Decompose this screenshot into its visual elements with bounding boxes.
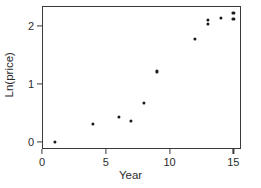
y-axis-tick-label: 1 [18, 79, 34, 90]
x-axis-tick-label: 5 [103, 157, 109, 168]
y-axis-tick-label: 2 [18, 21, 34, 32]
y-axis-tick [37, 84, 42, 85]
plot-area [42, 6, 241, 149]
y-axis-tick [37, 26, 42, 27]
x-axis-tick [41, 149, 42, 154]
x-axis-label: Year [0, 170, 261, 182]
y-axis-label: Ln(price) [4, 52, 16, 97]
x-axis-tick-label: 0 [39, 157, 45, 168]
y-axis-label-wrapper: Ln(price) [2, 0, 18, 149]
x-axis-tick [169, 149, 170, 154]
x-axis-tick-label: 15 [227, 157, 239, 168]
y-axis-tick [37, 141, 42, 142]
scatter-plot-figure: 051015 012 Year Ln(price) [0, 0, 261, 188]
y-axis-tick-label: 0 [18, 137, 34, 148]
x-axis-tick [105, 149, 106, 154]
x-axis-tick [233, 149, 234, 154]
x-axis-tick-label: 10 [163, 157, 175, 168]
